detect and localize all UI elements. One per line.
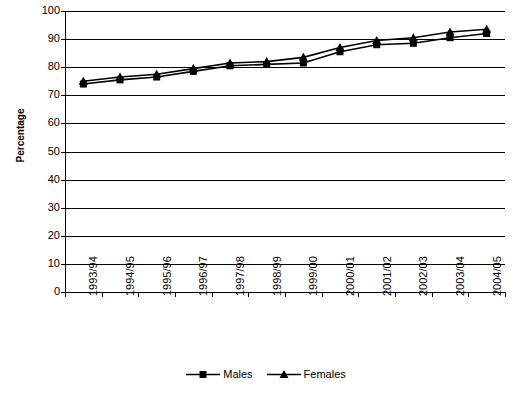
y-axis-tick-label: 90 bbox=[26, 33, 60, 44]
x-axis-tick-label: 1995/96 bbox=[161, 256, 173, 296]
y-axis-tick-label: 0 bbox=[26, 286, 60, 297]
y-axis-tick-labels: 1009080706050403020100 bbox=[22, 0, 60, 394]
legend-label: Females bbox=[304, 369, 346, 380]
x-axis-tick-label: 2004/05 bbox=[491, 256, 503, 296]
square-marker bbox=[200, 371, 207, 378]
y-axis-tick-label: 20 bbox=[26, 230, 60, 241]
y-axis-tick-label: 50 bbox=[26, 146, 60, 157]
x-axis-tick-label: 1993/94 bbox=[87, 256, 99, 296]
series-lines bbox=[65, 11, 505, 292]
y-axis-tick-label: 100 bbox=[26, 5, 60, 16]
x-axis-tick-label: 2002/03 bbox=[417, 256, 429, 296]
x-axis-tick-label: 1998/99 bbox=[271, 256, 283, 296]
x-axis-tick bbox=[505, 292, 506, 297]
x-axis-tick-label: 1997/98 bbox=[234, 256, 246, 296]
y-axis-tick-label: 80 bbox=[26, 61, 60, 72]
line-chart: Percentage 1009080706050403020100 1993/9… bbox=[0, 0, 532, 394]
y-axis-tick-label: 70 bbox=[26, 89, 60, 100]
x-axis-tick-label: 1994/95 bbox=[124, 256, 136, 296]
legend-item[interactable]: Females bbox=[267, 369, 346, 380]
y-axis-tick-label: 10 bbox=[26, 258, 60, 269]
x-axis-tick-labels: 1993/941994/951995/961996/971997/981998/… bbox=[65, 292, 505, 367]
x-axis-tick-label: 2001/02 bbox=[381, 256, 393, 296]
x-axis-tick-label: 1996/97 bbox=[197, 256, 209, 296]
plot-area bbox=[65, 11, 505, 292]
series-line bbox=[83, 29, 486, 81]
square-marker bbox=[186, 369, 220, 380]
y-axis-tick-label: 60 bbox=[26, 117, 60, 128]
triangle-marker bbox=[267, 369, 301, 380]
y-axis-tick-label: 30 bbox=[26, 202, 60, 213]
x-axis-tick-label: 2000/01 bbox=[344, 256, 356, 296]
legend-label: Males bbox=[223, 369, 252, 380]
x-axis-tick-label: 1999/00 bbox=[307, 256, 319, 296]
legend-item[interactable]: Males bbox=[186, 369, 252, 380]
chart-legend: MalesFemales bbox=[0, 369, 532, 380]
x-axis-tick-label: 2003/04 bbox=[454, 256, 466, 296]
y-axis-tick-label: 40 bbox=[26, 174, 60, 185]
